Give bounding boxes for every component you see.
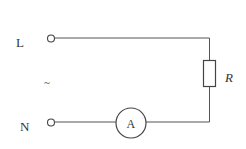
terminal-L-icon [48, 35, 55, 42]
resistor-label: R [224, 70, 233, 85]
ac-source-symbol: ~ [44, 76, 50, 88]
circuit-svg: L N ~ R A [0, 0, 246, 149]
resistor-symbol [204, 61, 216, 87]
circuit-diagram: L N ~ R A [0, 0, 246, 149]
ammeter-label: A [127, 117, 136, 131]
terminal-L-label: L [16, 35, 24, 50]
terminal-N-icon [48, 119, 55, 126]
terminal-N-label: N [20, 119, 30, 134]
